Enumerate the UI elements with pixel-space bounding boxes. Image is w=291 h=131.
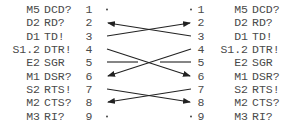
null-modem-wiring-diagram: M5 DCD? 1 D2 RD? 2 D1 TD! 3 S1.2 DTR! 4 …	[0, 0, 291, 131]
wiring-lines	[0, 0, 291, 131]
